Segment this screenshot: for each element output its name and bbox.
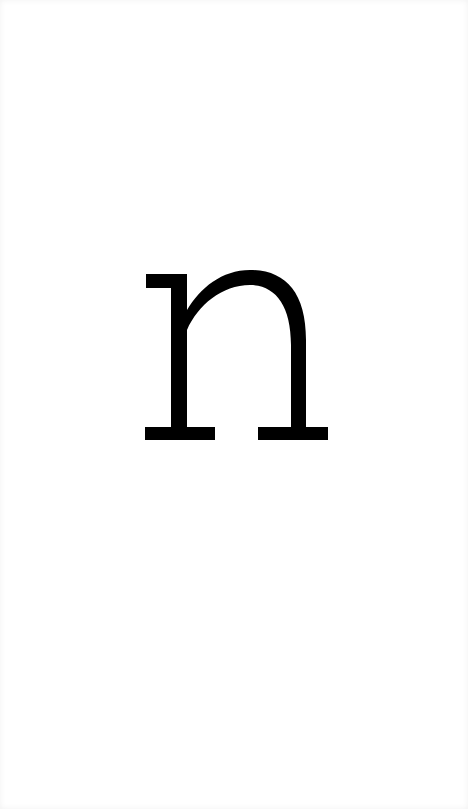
letter-card: n bbox=[0, 0, 468, 809]
letter-n-glyph bbox=[0, 0, 468, 809]
